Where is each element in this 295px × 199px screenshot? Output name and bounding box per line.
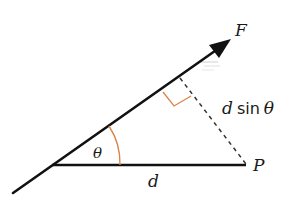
angle-label: θ <box>93 146 102 161</box>
perp-d: d <box>222 98 233 118</box>
angle-arc <box>109 126 120 165</box>
perpendicular-distance-label: d sin θ <box>222 100 274 118</box>
force-arrowhead-icon <box>209 39 231 58</box>
perp-sin: sin <box>237 99 260 118</box>
smudge-artifact <box>200 62 220 70</box>
perp-theta: θ <box>264 98 274 118</box>
distance-label: d <box>148 173 159 190</box>
force-line <box>13 46 222 193</box>
right-angle-marker <box>163 92 191 106</box>
perpendicular-dashed-line <box>180 78 246 164</box>
point-label: P <box>253 157 264 174</box>
force-label: F <box>235 22 247 39</box>
